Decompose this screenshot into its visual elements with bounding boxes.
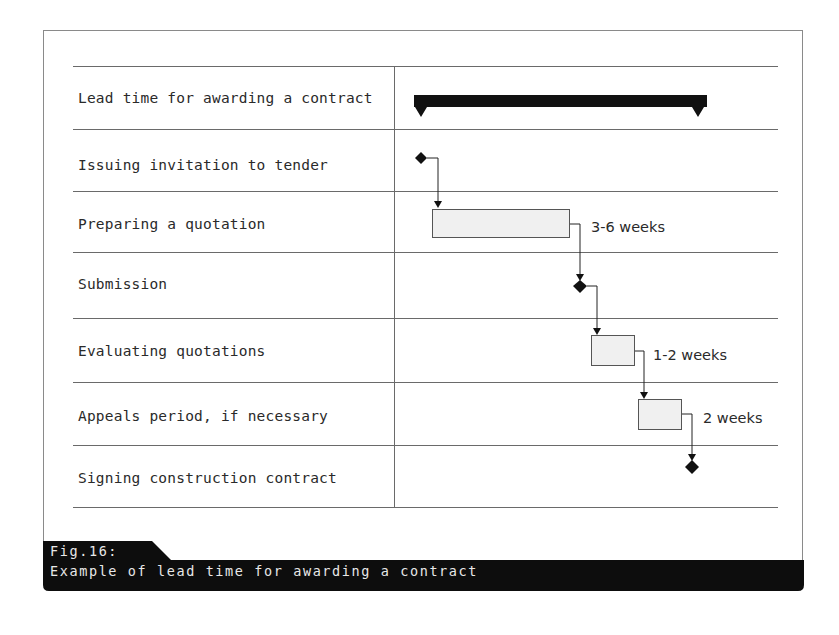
summary-bar — [414, 95, 707, 117]
milestone-diamond-icon — [573, 280, 587, 293]
duration-label: 2 weeks — [703, 410, 763, 426]
task-bar-evaluating-quotations — [592, 336, 635, 366]
gantt-chart: 3-6 weeks 1-2 weeks 2 weeks — [0, 0, 839, 635]
milestone-diamond-icon — [685, 460, 699, 474]
dependency-arrow — [682, 414, 692, 456]
dependency-arrow — [587, 286, 597, 330]
dependency-arrow — [570, 224, 580, 276]
task-bar-preparing-quotation — [433, 210, 570, 238]
duration-label: 1-2 weeks — [653, 347, 727, 363]
task-bar-appeals-period — [639, 400, 682, 430]
figure-caption: Example of lead time for awarding a cont… — [50, 563, 478, 579]
milestone-diamond-icon — [415, 152, 427, 164]
dependency-arrow — [635, 351, 644, 394]
duration-label: 3-6 weeks — [591, 219, 665, 235]
dependency-arrow — [427, 158, 438, 204]
figure-number: Fig.16: — [50, 543, 118, 559]
